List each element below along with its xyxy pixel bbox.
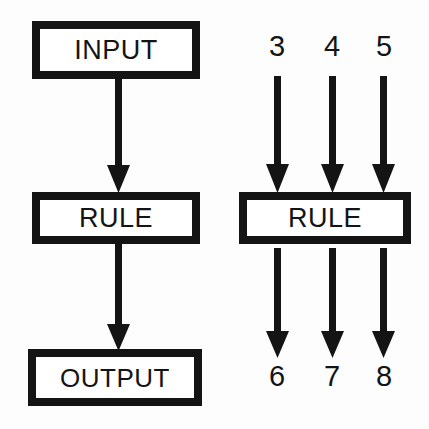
down-arrow-icon <box>371 248 396 358</box>
node-rule-right: RULE <box>239 192 411 244</box>
input-value-5: 5 <box>367 32 401 61</box>
input-value-4: 4 <box>315 32 349 61</box>
down-arrow-icon <box>106 79 131 193</box>
input-value-3: 3 <box>260 32 294 61</box>
connector-output-8-arrow <box>371 248 396 358</box>
output-value-6: 6 <box>260 362 294 391</box>
diagram-canvas: INPUT RULE OUTPUT 3 4 5 RU <box>0 0 429 429</box>
connector-rule-to-output-arrow <box>106 243 131 351</box>
connector-output-6-arrow <box>265 248 290 358</box>
down-arrow-icon <box>265 248 290 358</box>
down-arrow-icon <box>371 76 396 193</box>
node-rule-right-label: RULE <box>288 205 362 232</box>
node-input: INPUT <box>32 21 200 79</box>
down-arrow-icon <box>106 243 131 351</box>
output-value-8: 8 <box>367 362 401 391</box>
output-value-7: 7 <box>315 362 349 391</box>
node-output: OUTPUT <box>28 349 202 406</box>
connector-input-5-arrow <box>371 76 396 193</box>
node-output-label: OUTPUT <box>60 365 170 391</box>
node-rule-left: RULE <box>32 192 200 244</box>
down-arrow-icon <box>265 76 290 193</box>
node-rule-left-label: RULE <box>79 205 153 232</box>
connector-input-to-rule-arrow <box>106 79 131 193</box>
connector-input-3-arrow <box>265 76 290 193</box>
connector-input-4-arrow <box>320 76 345 193</box>
down-arrow-icon <box>320 76 345 193</box>
node-input-label: INPUT <box>74 37 158 64</box>
down-arrow-icon <box>320 248 345 358</box>
connector-output-7-arrow <box>320 248 345 358</box>
